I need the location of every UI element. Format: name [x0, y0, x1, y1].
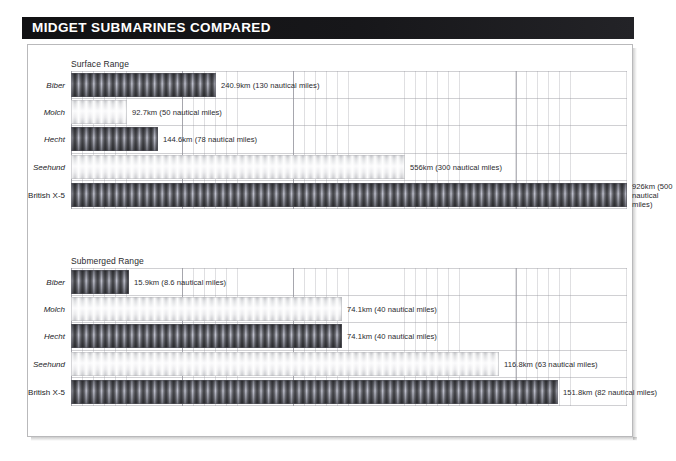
table-row: British X-5 926km (500 nautical miles): [71, 181, 627, 209]
table-row: Biber 15.9km (8.6 nautical miles): [71, 268, 627, 296]
table-row: British X-5 151.8km (82 nautical miles): [71, 378, 627, 406]
surface-range-plot: Biber 240.9km (130 nautical miles) Molch…: [71, 71, 627, 209]
bar-value-biber: 240.9km (130 nautical miles): [221, 80, 319, 89]
bar-hecht: [71, 127, 158, 151]
row-label-british-x5: British X-5: [0, 387, 65, 396]
submerged-range-plot: Biber 15.9km (8.6 nautical miles) Molch …: [71, 268, 627, 406]
row-label-biber: Biber: [0, 80, 65, 89]
surface-range-chart: Surface Range Biber 240.9km (130 nautica…: [71, 59, 627, 219]
panel-shadow-right: [633, 48, 637, 440]
bar-british-x5: [71, 183, 627, 207]
table-row: Hecht 144.6km (78 nautical miles): [71, 126, 627, 154]
bar-value-seehund: 556km (300 nautical miles): [410, 163, 502, 172]
table-row: Molch 74.1km (40 nautical miles): [71, 296, 627, 324]
bar-value-biber: 15.9km (8.6 nautical miles): [134, 277, 226, 286]
submerged-range-title: Submerged Range: [71, 256, 144, 266]
bar-value-british-x5: 926km (500 nautical miles): [632, 181, 676, 208]
panel-shadow-bottom: [31, 437, 637, 441]
table-row: Molch 92.7km (50 nautical miles): [71, 99, 627, 127]
table-row: Seehund 556km (300 nautical miles): [71, 154, 627, 182]
bar-british-x5: [71, 380, 558, 404]
row-label-seehund: Seehund: [0, 360, 65, 369]
submerged-range-chart: Submerged Range Biber 15.9km (8.6 nautic…: [71, 256, 627, 416]
bar-value-british-x5: 151.8km (82 nautical miles): [563, 387, 657, 396]
row-label-hecht: Hecht: [0, 332, 65, 341]
surface-range-title: Surface Range: [71, 59, 129, 69]
row-label-biber: Biber: [0, 277, 65, 286]
bar-molch: [71, 297, 342, 321]
bar-value-hecht: 74.1km (40 nautical miles): [347, 332, 437, 341]
table-row: Hecht 74.1km (40 nautical miles): [71, 323, 627, 351]
bar-value-molch: 92.7km (50 nautical miles): [132, 107, 222, 116]
bar-molch: [71, 100, 127, 124]
bar-biber: [71, 270, 129, 294]
row-label-seehund: Seehund: [0, 163, 65, 172]
bar-value-molch: 74.1km (40 nautical miles): [347, 304, 437, 313]
row-label-molch: Molch: [0, 304, 65, 313]
table-row: Biber 240.9km (130 nautical miles): [71, 71, 627, 99]
page-title: MIDGET SUBMARINES COMPARED: [32, 20, 271, 35]
bar-hecht: [71, 324, 342, 348]
bar-seehund: [71, 352, 499, 376]
chart-panel: Surface Range Biber 240.9km (130 nautica…: [27, 44, 633, 437]
bar-biber: [71, 73, 216, 97]
row-label-hecht: Hecht: [0, 135, 65, 144]
bar-seehund: [71, 155, 405, 179]
bar-value-seehund: 116.8km (63 nautical miles): [504, 360, 598, 369]
bar-value-hecht: 144.6km (78 nautical miles): [163, 135, 257, 144]
row-label-molch: Molch: [0, 107, 65, 116]
table-row: Seehund 116.8km (63 nautical miles): [71, 351, 627, 379]
header-bar: MIDGET SUBMARINES COMPARED: [22, 17, 634, 39]
row-label-british-x5: British X-5: [0, 190, 65, 199]
